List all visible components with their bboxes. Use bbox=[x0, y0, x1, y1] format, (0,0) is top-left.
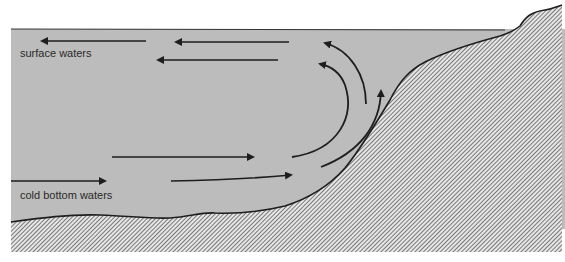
upwelling-diagram bbox=[0, 0, 565, 262]
cold-bottom-waters-label: cold bottom waters bbox=[20, 189, 112, 201]
surface-waters-label: surface waters bbox=[20, 47, 92, 59]
